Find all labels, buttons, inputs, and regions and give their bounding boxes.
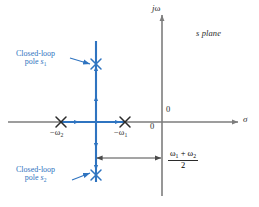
closed-loop-pole-s2-callout: Closed-loop pole s2 — [16, 166, 55, 184]
fraction-numerator-w2-sub: 2 — [193, 153, 196, 159]
imaginary-axis-label: jω — [152, 4, 160, 13]
callout-leader-s2 — [72, 173, 90, 180]
dimension-value-fraction: ω1 + ω2 2 — [168, 149, 198, 171]
real-axis-label: σ — [243, 115, 247, 124]
pole-label-omega2-sub: 2 — [60, 132, 63, 138]
closed-loop-pole-s1-callout: Closed-loop pole s1 — [16, 50, 55, 68]
root-locus-figure: jω σ s plane 0 0 −ω2 −ω1 Closed-loop pol… — [0, 0, 259, 207]
closed-loop-pole-s1-line2-prefix: pole — [25, 57, 41, 66]
fraction-numerator-plus: + — [179, 148, 188, 158]
fraction-numerator: ω1 + ω2 — [168, 149, 198, 159]
root-locus-group — [61, 41, 125, 182]
pole-label-omega2: −ω2 — [50, 128, 63, 138]
pole-label-omega1-sub: 1 — [124, 132, 127, 138]
s-plane-label: s plane — [196, 29, 221, 38]
closed-loop-pole-s1-sub: 1 — [44, 61, 47, 67]
closed-loop-pole-s2-line2: pole s2 — [16, 174, 55, 183]
closed-loop-pole-s1-line2: pole s1 — [16, 58, 55, 67]
callout-leader-s1 — [70, 58, 90, 64]
s-plane-label-text: s plane — [196, 28, 221, 38]
imaginary-axis-label-omega: ω — [155, 3, 161, 13]
fraction-denominator: 2 — [168, 161, 198, 171]
origin-label-upper: 0 — [166, 105, 170, 114]
callout-leaders — [70, 58, 90, 180]
origin-label-lower: 0 — [150, 122, 154, 131]
closed-loop-pole-s2-sub: 2 — [44, 177, 47, 183]
pole-label-omega1: −ω1 — [114, 128, 127, 138]
closed-loop-pole-s2-line2-prefix: pole — [25, 173, 41, 182]
